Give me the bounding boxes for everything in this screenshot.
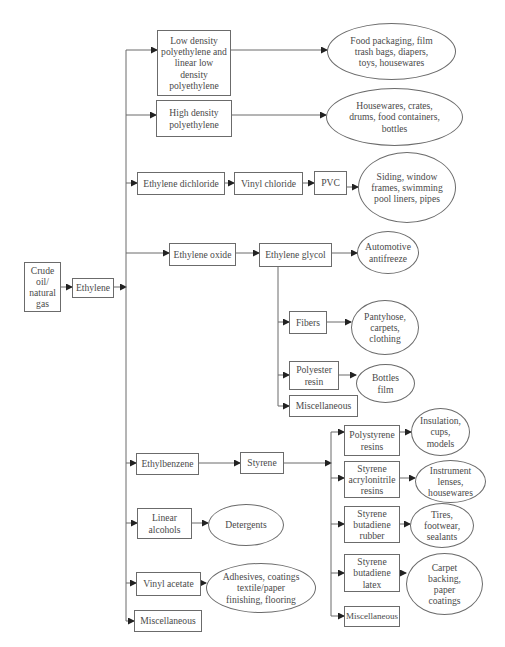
ldpe-uses-ellipse: Food packaging, film trash bags, diapers… [327,23,456,80]
vinyl-acetate-uses-ellipse: Adhesives, coatings textile/paper finish… [206,563,316,613]
hdpe-uses-ellipse: Housewares, crates, drums, food containe… [326,88,463,146]
pvc-box: PVC [314,171,347,195]
san-resins-box: Styrene acrylonitrile resins [344,461,400,498]
san-uses-ellipse: Instrument lenses, housewares [415,460,486,503]
ldpe-box: Low density polyethylene and linear low … [157,30,231,96]
crude-oil-natural-gas-box: Crude oil/ natural gas [24,262,61,312]
pvc-uses-ellipse: Siding, window frames, swimming pool lin… [358,152,456,223]
polyester-resin-box: Polyester resin [289,361,339,390]
hdpe-box: High density polyethylene [156,100,232,137]
fibers-box: Fibers [289,311,327,334]
styrene-box: Styrene [240,452,284,474]
styrene-miscellaneous-box: Miscellaneous [344,606,400,627]
ethylene-miscellaneous-box: Miscellaneous [134,610,202,632]
polystyrene-uses-ellipse: Insulation, cups, models [411,408,470,456]
ethylene-flow-diagram: Crude oil/ natural gas Ethylene Low dens… [0,0,505,647]
eg-miscellaneous-box: Miscellaneous [289,395,358,417]
sb-latex-box: Styrene butadiene latex [344,554,400,592]
ethylene-dichloride-box: Ethylene dichloride [137,172,225,195]
linear-alcohols-box: Linear alcohols [137,508,192,539]
sb-latex-uses-ellipse: Carpet backing, paper coatings [406,553,483,615]
detergents-ellipse: Detergents [208,504,284,546]
sbr-uses-ellipse: Tires, footwear, sealants [410,503,474,548]
polyester-uses-ellipse: Bottles film [356,364,415,403]
polystyrene-resins-box: Polystyrene resins [344,425,400,456]
vinyl-acetate-box: Vinyl acetate [136,572,201,596]
fibers-uses-ellipse: Pantyhose, carpets, clothing [351,300,419,355]
ethylene-box: Ethylene [72,278,114,298]
ethylene-oxide-box: Ethylene oxide [169,243,236,266]
vinyl-chloride-box: Vinyl chloride [234,172,303,195]
antifreeze-ellipse: Automotive antifreeze [357,231,419,274]
ethylene-glycol-box: Ethylene glycol [259,243,332,267]
sbr-box: Styrene butadiene rubber [344,506,400,543]
ethylbenzene-box: Ethylbenzene [136,453,199,475]
